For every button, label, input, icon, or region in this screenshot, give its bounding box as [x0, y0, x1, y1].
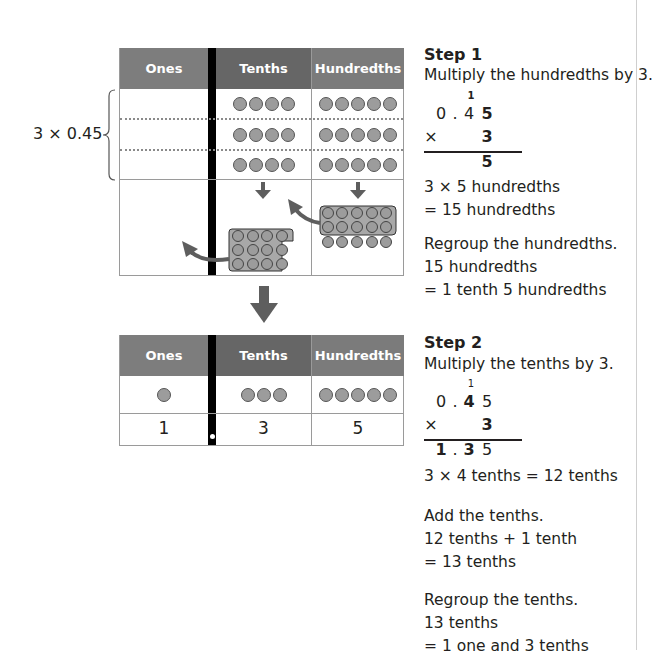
regroup-illustration [120, 179, 404, 275]
step2-add-1: Add the tenths. [424, 505, 544, 528]
tenths-counters-row3 [216, 158, 311, 172]
step1-title: Step 1 [424, 43, 482, 66]
tenths-counters [216, 388, 311, 402]
header-ones: Ones [120, 48, 208, 89]
header-hundredths: Hundredths [312, 335, 404, 376]
hundredths-counters-row1 [312, 97, 404, 111]
decimal-point-bar [208, 335, 216, 445]
hundredths-counters-row2 [312, 128, 404, 142]
decimal-point-dot [210, 434, 215, 439]
hundredths-counters-row3 [312, 158, 404, 172]
place-value-table-top: Ones Tenths Hundredths [119, 48, 404, 276]
step2-regroup-2: 13 tenths [424, 612, 498, 635]
tenths-counters-row1 [216, 97, 311, 111]
step2-title: Step 2 [424, 331, 482, 354]
step1-instruction: Multiply the hundredths by 3. [424, 64, 653, 87]
curly-brace-icon [100, 89, 118, 181]
step1-line1: 3 × 5 hundredths [424, 176, 560, 199]
header-ones: Ones [120, 335, 208, 376]
step1-regroup-3: = 1 tenth 5 hundredths [424, 279, 606, 302]
step2-add-2: 12 tenths + 1 tenth [424, 528, 577, 551]
step1-regroup-2: 15 hundredths [424, 256, 537, 279]
tenths-counters-row2 [216, 128, 311, 142]
hundredths-counters [312, 388, 404, 402]
step1-regroup-1: Regroup the hundredths. [424, 233, 618, 256]
digit-ones: 1 [120, 418, 208, 438]
page-divider-line [636, 0, 637, 650]
digit-tenths: 3 [216, 418, 311, 438]
ones-counters [120, 388, 208, 402]
place-value-table-bottom: Ones Tenths Hundredths 1 3 5 [119, 335, 404, 446]
header-tenths: Tenths [215, 335, 312, 376]
step2-add-3: = 13 tenths [424, 551, 516, 574]
step2-regroup-3: = 1 one and 3 tenths [424, 635, 589, 655]
header-tenths: Tenths [215, 48, 312, 89]
step2-calculation: 1 0 . 4 5 × 3 1 . 3 5 [424, 378, 534, 458]
big-down-arrow-icon [250, 286, 278, 324]
brace-label: 3 × 0.45 [33, 124, 102, 143]
digit-hundredths: 5 [312, 418, 404, 438]
step2-regroup-1: Regroup the tenths. [424, 589, 578, 612]
down-arrow-icon [255, 182, 366, 199]
step2-line1: 3 × 4 tenths = 12 tenths [424, 465, 618, 488]
step1-line2: = 15 hundredths [424, 199, 555, 222]
step1-calculation: 1 0 . 4 5 × 3 5 [424, 90, 534, 170]
header-hundredths: Hundredths [312, 48, 404, 89]
step2-instruction: Multiply the tenths by 3. [424, 353, 614, 376]
